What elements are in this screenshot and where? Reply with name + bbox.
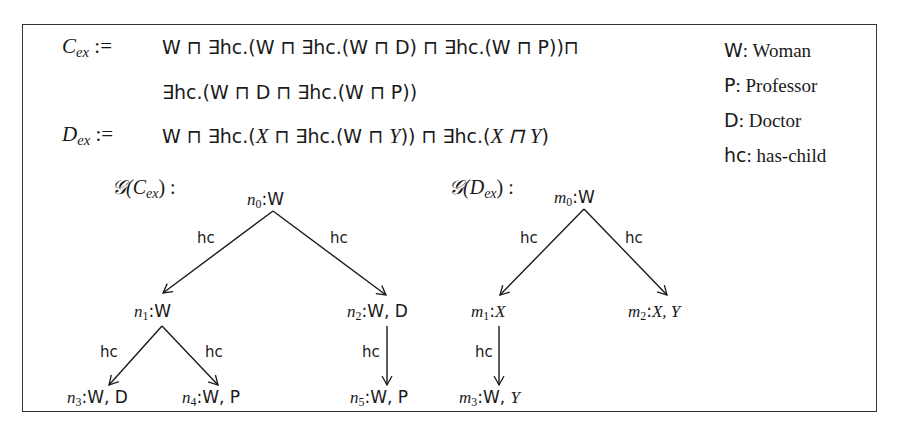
node-n3: n3:W, D <box>67 389 128 409</box>
node-id: n <box>67 388 76 407</box>
node-labels: W, P <box>370 387 408 407</box>
node-m0: m0:W <box>554 189 595 209</box>
node-labels: W, P <box>202 387 240 407</box>
legend-value: has-child <box>757 145 827 166</box>
node-id: m <box>554 188 566 207</box>
edge-m0-m1 <box>500 209 584 295</box>
graph-symbol: 𝒢( <box>449 176 470 198</box>
node-m2: m2:X, Y <box>628 303 680 323</box>
graph-c-label: 𝒢(Cex) : <box>112 177 176 201</box>
d-ex-var: X ⊓ Y <box>490 124 541 148</box>
graph-d-sub: ex <box>484 186 496 201</box>
node-m1: m1:X <box>471 303 505 323</box>
graph-d-symbol: D <box>470 176 484 198</box>
edge-label-m1-m3: hc <box>475 345 493 360</box>
edge-n0-n2 <box>273 211 386 295</box>
d-ex-formula-line1: W ⊓ ∃hc.(X ⊓ ∃hc.(W ⊓ Y)) ⊓ ∃hc.(X ⊓ Y) <box>162 126 549 147</box>
legend-key: D <box>724 109 739 131</box>
node-id: m <box>459 388 471 407</box>
node-id: n <box>182 388 191 407</box>
graph-edges <box>0 0 897 436</box>
edge-label-n0-n2: hc <box>330 231 348 246</box>
node-labels-italic: X <box>495 302 505 321</box>
node-labels-italic: Y <box>511 388 520 407</box>
graph-d-suffix: ) : <box>497 176 514 198</box>
node-labels-italic: X, Y <box>652 302 680 321</box>
node-labels: W, <box>483 387 511 407</box>
legend-sep: : <box>739 110 749 131</box>
node-n5: n5:W, P <box>350 389 408 409</box>
node-id: m <box>628 302 640 321</box>
node-id: n <box>134 302 143 321</box>
edge-m0-m2 <box>584 209 667 295</box>
legend-key: P <box>724 74 735 96</box>
legend-sep: : <box>747 145 757 166</box>
graph-symbol: 𝒢( <box>112 176 133 198</box>
node-labels: W <box>267 189 284 209</box>
edge-label-m0-m1: hc <box>520 231 538 246</box>
node-m3: m3:W, Y <box>459 389 520 409</box>
d-ex-part: W ⊓ ∃hc.( <box>162 125 256 147</box>
node-id: n <box>350 388 359 407</box>
d-ex-var: Y <box>389 124 401 148</box>
c-ex-symbol: C <box>62 34 76 58</box>
legend-key: W <box>724 39 743 61</box>
graph-c-symbol: C <box>133 176 146 198</box>
node-labels: W <box>578 187 595 207</box>
node-id: m <box>471 302 483 321</box>
edge-label-m0-m2: hc <box>625 231 643 246</box>
edge-label-n1-n4: hc <box>205 345 223 360</box>
legend-item-d: D: Doctor <box>724 111 801 130</box>
c-ex-formula-line1: W ⊓ ∃hc.(W ⊓ ∃hc.(W ⊓ D) ⊓ ∃hc.(W ⊓ P))⊓ <box>162 38 579 57</box>
legend-value: Doctor <box>749 110 802 131</box>
legend-item-hc: hc: has-child <box>724 146 826 165</box>
edge-label-n2-n5: hc <box>362 345 380 360</box>
legend-item-w: W: Woman <box>724 41 811 60</box>
c-ex-lhs: Cex := <box>62 36 112 59</box>
d-ex-subscript: ex <box>77 132 90 148</box>
d-ex-symbol: D <box>62 122 77 146</box>
d-ex-assign: := <box>95 122 113 146</box>
d-ex-var: X <box>256 124 269 148</box>
graph-d-label: 𝒢(Dex) : <box>449 177 514 201</box>
c-ex-subscript: ex <box>76 44 89 60</box>
d-ex-part: )) ⊓ ∃hc.( <box>401 125 491 147</box>
node-labels: W <box>154 301 171 321</box>
edge-label-n1-n3: hc <box>100 345 118 360</box>
legend-item-p: P: Professor <box>724 76 817 95</box>
node-n2: n2:W, D <box>347 303 408 323</box>
legend-value: Professor <box>746 75 818 96</box>
legend-sep: : <box>735 75 745 96</box>
node-labels: W, D <box>87 387 128 407</box>
d-ex-part: ⊓ ∃hc.(W ⊓ <box>268 125 389 147</box>
edge-label-n0-n1: hc <box>197 231 215 246</box>
c-ex-formula-line2: ∃hc.(W ⊓ D ⊓ ∃hc.(W ⊓ P)) <box>162 83 417 102</box>
c-ex-assign: := <box>94 34 112 58</box>
node-labels: W, D <box>367 301 408 321</box>
node-n1: n1:W <box>134 303 171 323</box>
graph-c-suffix: ) : <box>158 176 175 198</box>
edge-n0-n1 <box>163 211 273 293</box>
legend-value: Woman <box>752 40 811 61</box>
legend-key: hc <box>724 144 747 166</box>
d-ex-lhs: Dex := <box>62 124 113 147</box>
d-ex-part: ) <box>541 125 548 147</box>
node-n4: n4:W, P <box>182 389 240 409</box>
node-id: n <box>347 302 356 321</box>
node-id: n <box>247 190 256 209</box>
graph-c-sub: ex <box>146 186 158 201</box>
node-n0: n0:W <box>247 191 284 211</box>
